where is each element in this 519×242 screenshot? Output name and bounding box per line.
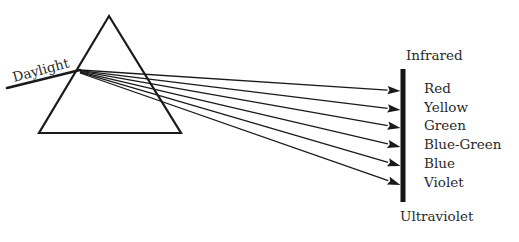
arrowhead-icon [387,140,401,148]
spectrum-screen [401,69,406,202]
arrowhead-icon [387,158,401,166]
color-label-blue: Blue [424,155,455,171]
prism-dispersion-diagram: Daylight Infrared RedYellowGreenBlue-Gre… [0,0,519,242]
ray-blue-green [80,72,401,148]
ultraviolet-label: Ultraviolet [400,208,474,224]
ray-line [80,70,388,90]
color-label-red: Red [424,80,451,96]
infrared-label: Infrared [406,47,463,63]
color-label-violet: Violet [423,174,464,190]
ray-yellow [80,71,401,113]
arrowhead-icon [387,177,401,185]
dispersed-rays [80,70,401,185]
arrowhead-icon [387,122,401,130]
spectrum-labels: RedYellowGreenBlue-GreenBlueViolet [423,80,502,190]
color-label-green: Green [424,117,466,133]
arrowhead-icon [387,86,400,94]
color-label-yellow: Yellow [423,99,468,115]
arrowhead-icon [387,104,400,112]
color-label-blue-green: Blue-Green [424,136,502,152]
